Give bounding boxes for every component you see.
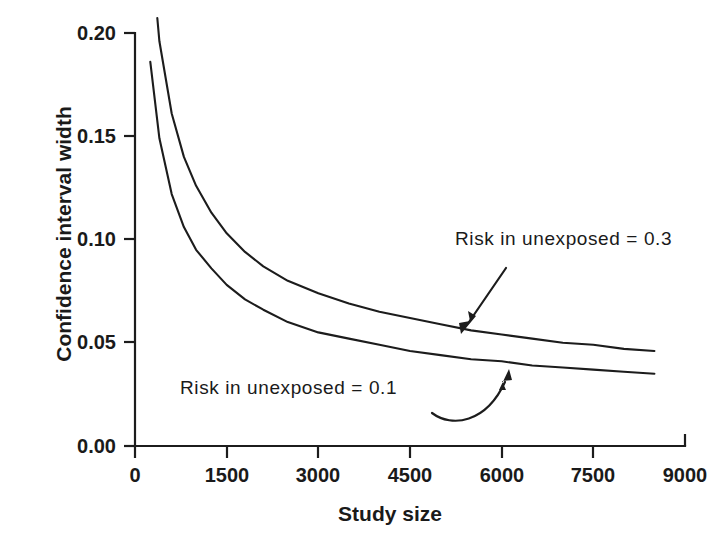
x-tick-label-3000: 3000 (273, 464, 363, 487)
x-tick-label-0: 0 (105, 464, 165, 487)
annotation-label-risk-0.3: Risk in unexposed = 0.3 (455, 228, 672, 250)
annotation-arrow-high (459, 268, 506, 334)
plot-canvas (0, 0, 716, 544)
annotation-arrow-low (432, 369, 512, 421)
x-tick-label-9000: 9000 (640, 464, 716, 487)
x-tick-label-7500: 7500 (548, 464, 638, 487)
y-tick-label-0.00: 0.00 (48, 435, 116, 458)
annotation-arrow-low-head (499, 369, 512, 390)
x-axis-title: Study size (230, 502, 550, 526)
y-axis-title: Confidence interval width (52, 84, 76, 384)
confidence-interval-width-chart: 0.20 0.15 0.10 0.05 0.00 0 1500 3000 450… (0, 0, 716, 544)
x-tick-label-4500: 4500 (365, 464, 455, 487)
x-tick-label-6000: 6000 (457, 464, 547, 487)
series-layer (150, 18, 654, 374)
x-tick-label-1500: 1500 (182, 464, 272, 487)
annotation-label-risk-0.1: Risk in unexposed = 0.1 (180, 377, 397, 399)
annotation-arrow-high-shaft (469, 268, 506, 322)
annotation-arrow-low-shaft (432, 382, 505, 421)
y-tick-label-0.20: 0.20 (48, 22, 116, 45)
curve-risk-0.3 (157, 18, 654, 351)
curve-risk-0.1 (150, 62, 654, 374)
